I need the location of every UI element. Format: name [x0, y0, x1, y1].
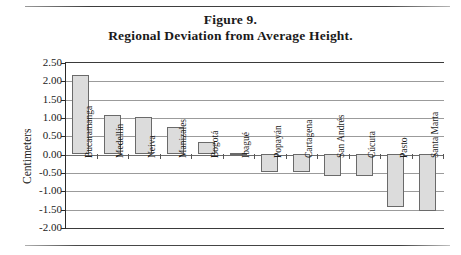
x-axis-category-label: Popayán — [274, 125, 284, 158]
chart-area: Centimeters 2.502.001.501.000.500.00-0.5… — [0, 0, 461, 255]
y-tick-label: 2.50 — [43, 57, 62, 68]
x-axis-tick — [286, 154, 287, 159]
bar-series: BucaramangaMedellínNeivaManizalesBogotáI… — [65, 62, 443, 227]
y-tick-label: 0.50 — [43, 130, 62, 141]
x-axis-category-label: Bucaramanga — [85, 105, 95, 157]
x-axis-category-label: Cartagena — [305, 119, 315, 158]
y-tick-label: 2.00 — [43, 75, 62, 86]
y-tick-label: -0.50 — [39, 167, 62, 178]
y-tick-label: 1.50 — [43, 94, 62, 105]
x-axis-tick — [317, 154, 318, 159]
bar — [419, 154, 436, 212]
y-axis-title: Centimeters — [6, 88, 24, 184]
bar — [387, 154, 404, 207]
x-axis-category-label: Neiva — [148, 135, 158, 158]
x-axis-tick — [254, 154, 255, 159]
x-axis-tick — [380, 154, 381, 159]
x-axis-category-label: Ibagué — [242, 132, 252, 158]
y-tick-label: 0.00 — [43, 149, 62, 160]
x-axis-category-label: Manizales — [179, 119, 189, 158]
y-tick-label: -1.00 — [39, 185, 62, 196]
y-tick-label: 1.00 — [43, 112, 62, 123]
x-axis-tick — [443, 154, 444, 159]
y-tick-label: -2.00 — [39, 222, 62, 233]
x-axis-category-label: Medellín — [116, 123, 126, 157]
x-axis-category-label: Cúcuta — [368, 131, 378, 158]
y-axis-tick-labels: 2.502.001.501.000.500.00-0.50-1.00-1.50-… — [24, 55, 62, 235]
y-tick-label: -1.50 — [39, 204, 62, 215]
bottom-rule — [25, 245, 450, 246]
x-axis-tick — [223, 154, 224, 159]
x-axis-tick — [191, 154, 192, 159]
x-axis-tick — [160, 154, 161, 159]
x-axis-tick — [412, 154, 413, 159]
y-axis-tick — [61, 228, 66, 229]
x-axis-tick — [97, 154, 98, 159]
x-axis-category-label: Pasto — [400, 137, 410, 158]
x-axis-category-label: Santa Marta — [431, 111, 441, 157]
x-axis-tick — [128, 154, 129, 159]
x-axis-tick — [349, 154, 350, 159]
x-axis-category-label: San Andrés — [337, 114, 347, 158]
gridline — [66, 228, 444, 229]
x-axis-category-label: Bogotá — [211, 130, 221, 157]
